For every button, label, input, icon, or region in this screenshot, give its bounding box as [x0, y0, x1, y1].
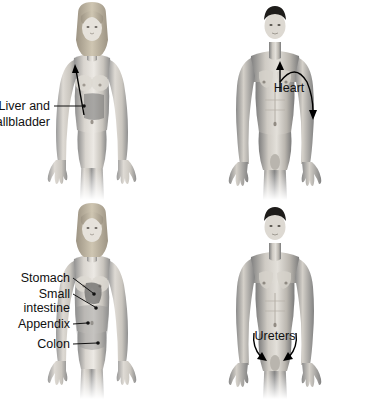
stomach-text: Stomach: [21, 271, 70, 285]
panel-top-left: Liver and gallbladder: [0, 0, 184, 200]
liver-line1: Liver and: [0, 99, 50, 113]
small-intestine-line1: Small: [39, 287, 70, 301]
male-figure-top: [229, 6, 322, 200]
label-liver-gallbladder: Liver and gallbladder: [0, 99, 86, 129]
label-ureters: Ureters: [255, 329, 296, 343]
leader-dot: [96, 341, 100, 345]
appendix-text: Appendix: [18, 317, 71, 331]
liver-line2: gallbladder: [0, 115, 50, 129]
leader-dot: [82, 104, 86, 108]
leader-dot: [92, 292, 96, 296]
male-figure-bottom: [229, 207, 322, 399]
anatomy-diagram: Liver and gallbladder: [0, 0, 367, 399]
label-heart: Heart: [274, 81, 305, 95]
panel-bottom-right: Ureters: [183, 199, 367, 399]
leader-dot: [86, 321, 90, 325]
leader-dot: [94, 306, 98, 310]
liver-gallbladder-region: [84, 93, 104, 120]
small-intestine-line2: intestine: [23, 301, 70, 315]
panel-top-right: Heart: [183, 0, 367, 200]
colon-text: Colon: [37, 337, 70, 351]
panel-bottom-left: Stomach Small intestine Appendix Colon: [0, 199, 184, 399]
